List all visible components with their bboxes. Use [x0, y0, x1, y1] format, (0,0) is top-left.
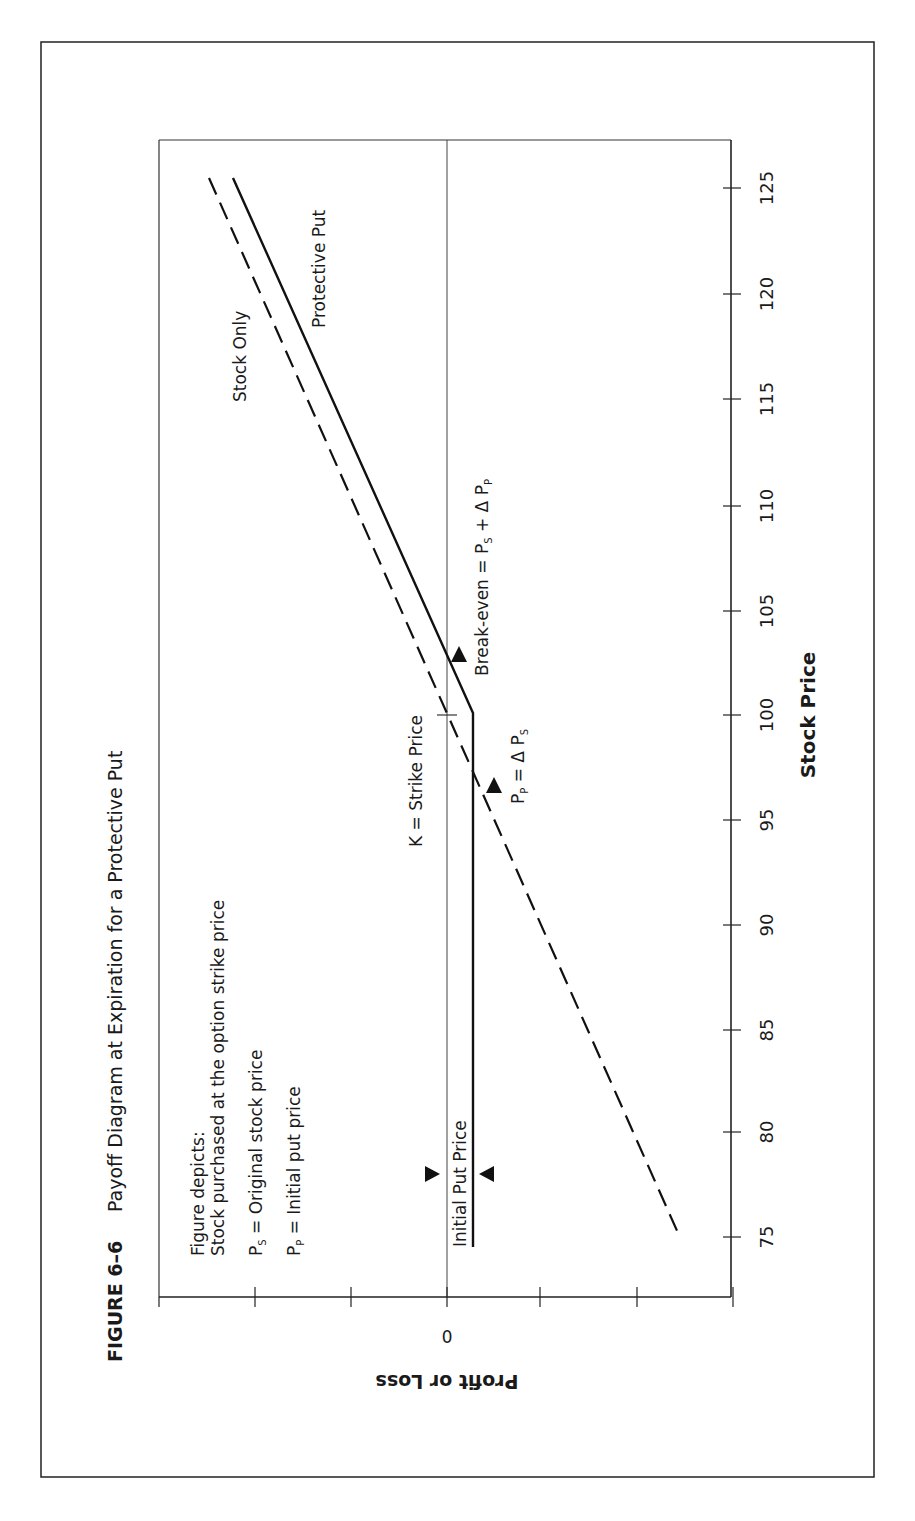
x-axis-title: Stock Price [796, 652, 820, 779]
notes-line2: Stock purchased at the option strike pri… [208, 900, 228, 1256]
protective-put-label: Protective Put [309, 210, 329, 328]
figure-canvas: FIGURE 6–6 Payoff Diagram at Expiration … [0, 0, 915, 1521]
initial-put-price-label: Initial Put Price [450, 1120, 470, 1247]
pp-equals-dps-label: PP = Δ PS [508, 729, 530, 804]
stock-price-tick-labels: 75 80 85 90 95 100 105 110 115 120 125 [756, 171, 777, 1249]
notes-block: Figure depicts: Stock purchased at the o… [188, 900, 306, 1256]
svg-text:110: 110 [756, 489, 777, 523]
put-price-right-arrow-icon [479, 1166, 494, 1182]
profit-zero-label: 0 [442, 1326, 453, 1346]
notes-pp-definition: PP = Initial put price [284, 1086, 306, 1256]
notes-line1: Figure depicts: [188, 1131, 208, 1256]
svg-text:105: 105 [756, 594, 777, 628]
svg-text:95: 95 [756, 809, 777, 832]
pp-equals-dps-marker-icon [486, 777, 502, 793]
protective-put-line [233, 178, 473, 1247]
breakeven-label: Break-even = PS + Δ PP [472, 479, 494, 676]
svg-text:90: 90 [756, 914, 777, 937]
stock-only-line [209, 178, 678, 1233]
stock-only-label: Stock Only [230, 311, 250, 402]
figure-frame [41, 42, 874, 1477]
svg-text:115: 115 [756, 382, 777, 416]
svg-text:85: 85 [756, 1019, 777, 1042]
figure-title-text: Payoff Diagram at Expiration for a Prote… [104, 751, 126, 1212]
svg-text:125: 125 [756, 171, 777, 205]
figure-number: FIGURE 6–6 [104, 1241, 126, 1362]
breakeven-marker-icon [451, 646, 467, 662]
y-axis-title: Profit or Loss [376, 1371, 519, 1393]
put-price-left-arrow-icon [425, 1166, 440, 1182]
figure-title: FIGURE 6–6 Payoff Diagram at Expiration … [104, 751, 126, 1362]
svg-text:100: 100 [756, 698, 777, 732]
svg-text:75: 75 [756, 1226, 777, 1249]
strike-price-label: K = Strike Price [406, 715, 426, 847]
svg-text:120: 120 [756, 277, 777, 311]
notes-ps-definition: PS = Original stock price [246, 1050, 268, 1256]
svg-text:80: 80 [756, 1121, 777, 1144]
stock-price-ticks [723, 188, 741, 1237]
